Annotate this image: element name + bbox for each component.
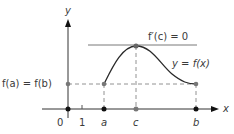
tick-one-label: 1	[79, 117, 85, 128]
point-c	[134, 107, 139, 112]
y-axis-label: y	[64, 5, 72, 16]
origin-label: 0	[57, 117, 63, 128]
origin-point	[66, 107, 71, 112]
point-peak	[134, 44, 139, 49]
c-label: c	[133, 117, 139, 128]
tangent-label: f′(c) = 0	[148, 31, 188, 42]
b-label: b	[193, 117, 199, 128]
level-label: f(a) = f(b)	[2, 78, 52, 89]
a-label: a	[101, 117, 107, 128]
x-axis-label: x	[222, 103, 229, 114]
rolle-theorem-diagram: y x 0 1 f′(c) = 0 y = f(x) f(a) = f(b) a…	[0, 0, 234, 134]
point-fa	[102, 82, 107, 87]
point-a	[102, 107, 107, 112]
level-point-y-axis	[66, 82, 71, 87]
point-fb	[194, 82, 199, 87]
curve-label: y = f(x)	[171, 58, 210, 69]
x-axis-arrow-icon	[211, 106, 219, 112]
point-b	[194, 107, 199, 112]
y-axis-arrow-icon	[65, 19, 71, 27]
